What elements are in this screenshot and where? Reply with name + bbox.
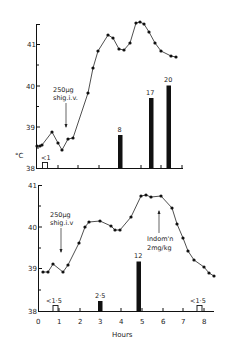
svg-text:5: 5 bbox=[140, 318, 144, 326]
svg-text:0: 0 bbox=[36, 318, 40, 326]
bottom-ytick-40: 40 bbox=[28, 224, 37, 232]
top-ytick-38: 38 bbox=[26, 165, 35, 173]
top-chart: 41 40 39 38 °C <1 8 17 20 250µg shig.i.v… bbox=[15, 20, 183, 173]
bottom-annotation-drug-dose: 2mg/kg bbox=[147, 244, 172, 252]
bottom-x-axis-label: Hours bbox=[112, 331, 133, 339]
top-bar-17 bbox=[149, 98, 154, 169]
bottom-bar-label-lt15-b: <1·5 bbox=[190, 297, 206, 305]
top-bar-label-lt1: <1 bbox=[41, 154, 51, 162]
bottom-annotation-drug: Indom'n bbox=[147, 235, 173, 243]
top-annotation-route: shig.i.v. bbox=[53, 94, 78, 102]
bottom-ytick-39: 39 bbox=[28, 265, 37, 273]
top-ytick-39: 39 bbox=[26, 124, 35, 132]
bottom-ytick-41: 41 bbox=[28, 182, 37, 190]
top-bar-20 bbox=[167, 86, 172, 169]
top-annotation-dose: 250µg bbox=[53, 86, 74, 94]
bottom-chart: 41 40 39 38 0 1 2 3 4 5 6 7 8 Hours <1·5… bbox=[28, 182, 216, 339]
bottom-arrow-up-icon bbox=[158, 210, 161, 214]
bottom-bar-open-1 bbox=[53, 306, 58, 312]
svg-text:4: 4 bbox=[119, 318, 124, 326]
top-arrow-head-icon bbox=[65, 124, 68, 128]
bottom-bar-label-12: 12 bbox=[134, 252, 142, 260]
bottom-x-ticks bbox=[59, 308, 204, 312]
top-bar-label-8: 8 bbox=[118, 126, 122, 134]
bottom-bar-label-lt15-a: <1·5 bbox=[46, 297, 62, 305]
bottom-bar-open-2 bbox=[197, 306, 202, 312]
figure: 41 40 39 38 °C <1 8 17 20 250µg shig.i.v… bbox=[0, 0, 234, 353]
bottom-bar-12 bbox=[137, 262, 142, 312]
svg-text:1: 1 bbox=[57, 318, 61, 326]
top-ytick-40: 40 bbox=[26, 83, 35, 91]
svg-text:2: 2 bbox=[78, 318, 82, 326]
top-ytick-41: 41 bbox=[27, 41, 36, 49]
bottom-temperature-points bbox=[41, 193, 215, 277]
bottom-ytick-38: 38 bbox=[28, 308, 37, 316]
bottom-xtick-labels: 0 1 2 3 4 5 6 7 8 bbox=[36, 318, 206, 326]
bottom-bar-2-5 bbox=[98, 301, 103, 312]
top-bar-open bbox=[43, 163, 48, 169]
top-bar-label-20: 20 bbox=[164, 76, 172, 84]
svg-text:6: 6 bbox=[161, 318, 166, 326]
top-y-unit: °C bbox=[15, 152, 24, 160]
svg-text:8: 8 bbox=[202, 318, 206, 326]
bottom-bar-label-2-5: 2·5 bbox=[95, 292, 105, 300]
top-bar-label-17: 17 bbox=[146, 89, 154, 97]
top-bar-8 bbox=[118, 135, 123, 169]
bottom-arrow-head-icon bbox=[60, 249, 63, 253]
svg-text:3: 3 bbox=[98, 318, 102, 326]
svg-text:7: 7 bbox=[181, 318, 185, 326]
bottom-annotation-dose: 250µg bbox=[50, 211, 71, 219]
bottom-annotation-route: shig.i.v bbox=[50, 219, 73, 227]
